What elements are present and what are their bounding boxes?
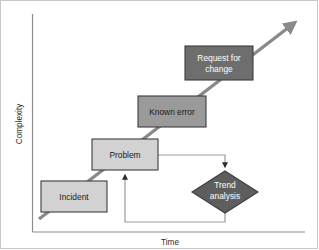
node-request-for-change-label-line2: change [205,64,233,74]
node-trend-analysis-label-line1: Trend [214,180,236,190]
node-request-for-change-label-line1: Request for [197,53,241,63]
node-known-error[interactable]: Known error [138,96,206,127]
diagram-canvas: Incident Problem Known error Request for… [0,0,319,250]
node-request-for-change[interactable]: Request for change [185,46,253,80]
connector-problem-to-trend [158,155,225,167]
node-problem-label: Problem [109,150,140,160]
node-known-error-label: Known error [149,107,195,117]
node-trend-analysis-label-line2: analysis [210,191,240,201]
y-axis-label: Complexity [15,103,24,144]
node-incident-label: Incident [59,192,89,202]
node-problem[interactable]: Problem [92,139,158,170]
escalation-diagram: Incident Problem Known error Request for… [0,0,319,250]
node-incident[interactable]: Incident [41,181,107,212]
x-axis-label: Time [161,238,179,247]
node-trend-analysis[interactable]: Trend analysis [192,171,258,213]
